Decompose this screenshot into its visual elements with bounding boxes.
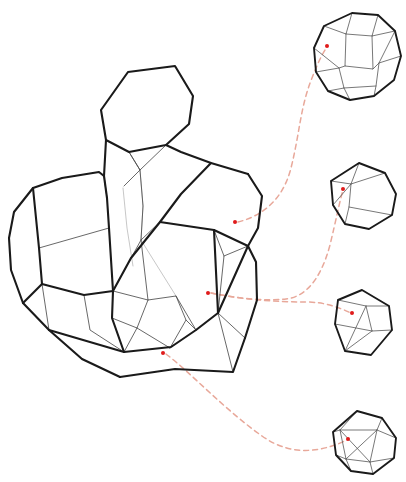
figure-root: [0, 0, 406, 482]
marker-small-polyhedron-3[interactable]: [350, 311, 354, 315]
marker-main-2[interactable]: [206, 291, 210, 295]
polyhedral-diagram-svg: [0, 0, 406, 482]
canvas-background: [0, 0, 406, 482]
marker-small-polyhedron-2[interactable]: [341, 187, 345, 191]
marker-main-3[interactable]: [161, 351, 165, 355]
marker-main-1[interactable]: [233, 220, 237, 224]
marker-small-polyhedron-1[interactable]: [325, 44, 329, 48]
marker-small-polyhedron-4[interactable]: [346, 437, 350, 441]
